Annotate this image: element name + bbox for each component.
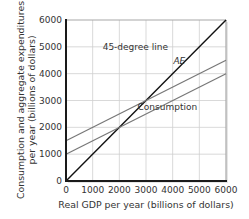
x-tick-label: 6000: [215, 185, 238, 195]
x-tick-label: 0: [63, 185, 69, 195]
y-tick-label: 6000: [39, 15, 62, 25]
x-tick-label: 1000: [81, 185, 104, 195]
y-tick-label: 1000: [39, 149, 62, 159]
y-axis-title-line2: per year (billions of dollars): [26, 35, 37, 164]
y-tick-label: 0: [56, 176, 62, 186]
y-axis-title-line1: Consumption and aggregate expenditures: [15, 1, 26, 199]
x-tick-label: 3000: [135, 185, 158, 195]
y-tick-label: 3000: [39, 96, 62, 106]
series-label-45-degree-line: 45-degree line: [103, 42, 169, 52]
y-tick-label: 2000: [39, 122, 62, 132]
series-label-ae: AE: [172, 56, 185, 66]
series-label-consumption: Consumption: [138, 102, 198, 112]
x-tick-label: 2000: [108, 185, 131, 195]
y-tick-labels: 0100020003000400050006000: [39, 15, 62, 186]
x-tick-label: 4000: [161, 185, 184, 195]
y-tick-label: 5000: [39, 42, 62, 52]
chart: 0100020003000400050006000 01000200030004…: [0, 0, 249, 219]
x-tick-labels: 0100020003000400050006000: [63, 185, 238, 195]
x-axis-title: Real GDP per year (billions of dollars): [58, 199, 233, 210]
y-tick-label: 4000: [39, 69, 62, 79]
x-tick-label: 5000: [188, 185, 211, 195]
y-axis-title: Consumption and aggregate expenditures p…: [15, 1, 37, 199]
